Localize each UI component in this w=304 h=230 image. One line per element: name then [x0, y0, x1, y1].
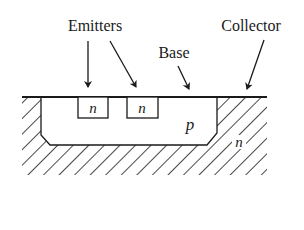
- collector-arrow: [247, 40, 264, 89]
- base-label: Base: [158, 44, 189, 61]
- collector-region-label: n: [235, 134, 243, 150]
- base-arrow: [178, 66, 189, 89]
- collector-label: Collector: [221, 17, 281, 34]
- emitters-label: Emitters: [68, 17, 122, 34]
- transistor-diagram: n n p n Emitters Base Collector: [0, 0, 304, 230]
- emitter-2-label: n: [138, 100, 146, 116]
- emitter-2-arrow: [110, 41, 136, 87]
- emitter-1-label: n: [89, 100, 97, 116]
- base-region-label: p: [185, 115, 195, 134]
